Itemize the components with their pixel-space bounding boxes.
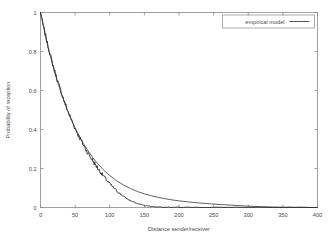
y-tick-label-1: 1 bbox=[33, 10, 36, 16]
x-tick-label-50: 50 bbox=[72, 212, 78, 218]
x-tick-label-150: 150 bbox=[140, 212, 149, 218]
x-tick-label-400: 400 bbox=[313, 212, 322, 218]
y-tick-label-0.2: 0.2 bbox=[29, 166, 37, 172]
series-line-empirical-model bbox=[41, 13, 318, 208]
y-tick-label-0.4: 0.4 bbox=[29, 127, 37, 133]
legend-label-empirical-model: empirical model bbox=[245, 19, 284, 25]
x-tick-label-300: 300 bbox=[244, 212, 253, 218]
x-axis-title: Distance sender/receiver bbox=[148, 226, 210, 232]
series-line-measured-data bbox=[41, 12, 318, 207]
y-tick-label-0.8: 0.8 bbox=[29, 49, 37, 55]
x-tick-label-200: 200 bbox=[174, 212, 183, 218]
x-tick-label-100: 100 bbox=[105, 212, 114, 218]
y-axis-title: Probability of reception bbox=[5, 82, 11, 139]
plot-frame bbox=[41, 13, 318, 208]
x-tick-label-0: 0 bbox=[39, 212, 42, 218]
chart-container: 05010015020025030035040000.20.40.60.81Di… bbox=[0, 0, 331, 238]
y-tick-label-0.6: 0.6 bbox=[29, 88, 37, 94]
x-tick-label-350: 350 bbox=[278, 212, 287, 218]
line-chart: 05010015020025030035040000.20.40.60.81Di… bbox=[0, 0, 331, 238]
x-tick-label-250: 250 bbox=[209, 212, 218, 218]
y-tick-label-0: 0 bbox=[33, 205, 36, 211]
